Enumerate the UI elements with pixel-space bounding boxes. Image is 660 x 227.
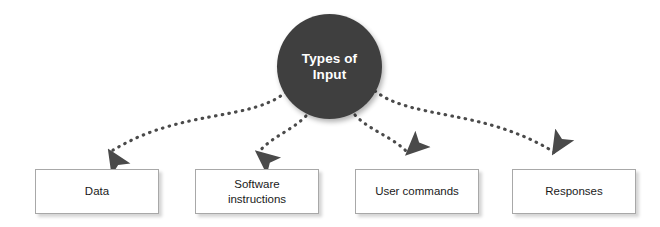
- node-software-instructions[interactable]: Software instructions: [195, 169, 319, 214]
- node-software-instructions-line-1: Software: [234, 178, 279, 190]
- node-user-commands[interactable]: User commands: [355, 169, 479, 214]
- node-data[interactable]: Data: [35, 169, 159, 214]
- hub-label-line-2: Input: [313, 67, 347, 82]
- diagram-canvas: Types of Input Data Software instruction…: [0, 0, 660, 227]
- node-responses[interactable]: Responses: [512, 169, 636, 214]
- node-software-instructions-label: Software instructions: [228, 177, 286, 206]
- connector-to-responses: [375, 91, 554, 152]
- node-user-commands-label: User commands: [375, 184, 459, 199]
- connector-to-software-instructions: [258, 116, 306, 153]
- connector-to-data: [110, 92, 286, 152]
- node-data-label: Data: [85, 184, 109, 199]
- connector-to-user-commands: [355, 115, 408, 153]
- hub-label-line-1: Types of: [302, 51, 357, 66]
- hub-node-types-of-input[interactable]: Types of Input: [277, 14, 382, 119]
- node-responses-label: Responses: [545, 184, 603, 199]
- node-software-instructions-line-2: instructions: [228, 193, 286, 205]
- hub-node-label: Types of Input: [302, 51, 357, 83]
